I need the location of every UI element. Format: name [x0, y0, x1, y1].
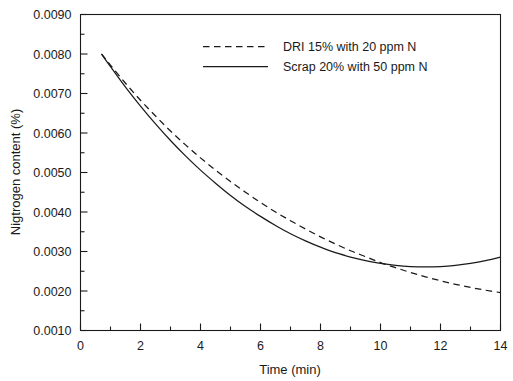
x-tick-label: 6: [257, 339, 264, 353]
y-tick-label: 0.0090: [33, 8, 71, 22]
chart-figure: 02468101214 0.00100.00200.00300.00400.00…: [0, 0, 513, 381]
legend-label-0: DRI 15% with 20 ppm N: [283, 40, 416, 54]
x-tick-label: 12: [434, 339, 448, 353]
y-tick-label: 0.0030: [33, 245, 71, 259]
y-tick-label: 0.0050: [33, 166, 71, 180]
x-tick-label: 4: [197, 339, 204, 353]
x-tick-label: 14: [494, 339, 508, 353]
series-line-0: [102, 54, 501, 293]
x-axis-ticks: [81, 324, 501, 331]
legend-label-1: Scrap 20% with 50 ppm N: [283, 60, 428, 74]
y-tick-label: 0.0040: [33, 206, 71, 220]
x-tick-label: 10: [374, 339, 388, 353]
y-tick-label: 0.0010: [33, 324, 71, 338]
y-tick-label: 0.0080: [33, 48, 71, 62]
data-series: [102, 54, 501, 293]
line-chart: 02468101214 0.00100.00200.00300.00400.00…: [0, 0, 513, 381]
y-axis-tick-labels: 0.00100.00200.00300.00400.00500.00600.00…: [33, 8, 71, 338]
chart-legend: DRI 15% with 20 ppm NScrap 20% with 50 p…: [203, 40, 428, 74]
series-line-1: [102, 54, 501, 267]
x-axis-tick-labels: 02468101214: [77, 339, 507, 353]
y-tick-label: 0.0060: [33, 127, 71, 141]
y-tick-label: 0.0020: [33, 285, 71, 299]
x-tick-label: 8: [317, 339, 324, 353]
x-axis-title: Time (min): [259, 362, 321, 377]
y-axis-title: Nigtrogen content (%): [8, 109, 23, 235]
x-tick-label: 2: [137, 339, 144, 353]
y-axis-ticks: [81, 15, 88, 331]
y-tick-label: 0.0070: [33, 87, 71, 101]
x-tick-label: 0: [77, 339, 84, 353]
